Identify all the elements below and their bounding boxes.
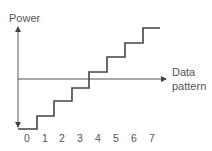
x-tick-label: 1: [42, 132, 48, 144]
x-tick-label: 7: [149, 132, 155, 144]
x-axis-label-line2: pattern: [172, 80, 206, 92]
x-tick-label: 6: [131, 132, 137, 144]
y-axis-label: Power: [9, 12, 41, 24]
x-tick-label: 0: [24, 132, 30, 144]
x-tick-label: 5: [113, 132, 119, 144]
x-tick-label: 2: [59, 132, 65, 144]
staircase-power-diagram: Power Data pattern 0 1 2 3 4 5 6 7: [0, 0, 212, 151]
x-tick-label: 4: [95, 132, 101, 144]
x-axis-label-line1: Data: [172, 66, 196, 78]
x-tick-label: 3: [77, 132, 83, 144]
